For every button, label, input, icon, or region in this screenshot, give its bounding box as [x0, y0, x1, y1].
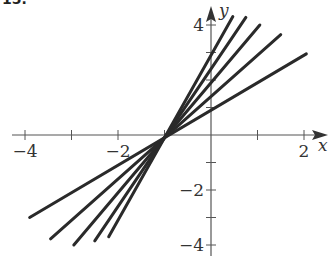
figure-label: 15. — [2, 0, 27, 7]
y-axis-label: y — [218, 0, 229, 20]
x-tick-label: 2 — [299, 141, 310, 161]
x-axis-label: x — [318, 135, 328, 155]
x-tick-label: −4 — [12, 141, 37, 161]
y-tick-label: 4 — [193, 15, 204, 35]
series-line-5 — [109, 16, 233, 236]
y-tick-label: −4 — [179, 235, 204, 255]
chart: 15. −4−224−2−4 x y — [0, 0, 334, 259]
y-tick-label: −2 — [179, 180, 204, 200]
x-tick-label: −2 — [105, 141, 130, 161]
